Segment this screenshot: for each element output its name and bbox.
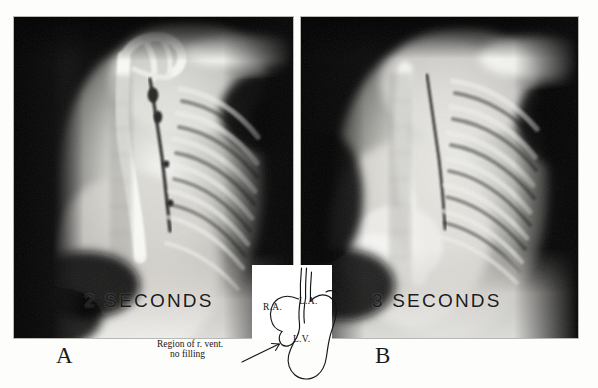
timestamp-label-a: 2 SECONDS [84, 290, 214, 312]
panel-letter-a: A [56, 344, 73, 367]
chamber-label-ra: R.A. [263, 302, 282, 312]
chamber-label-lv: L.V. [293, 334, 310, 344]
annotation-line-2: no filling [157, 349, 223, 359]
timestamp-label-b: 3 SECONDS [372, 290, 502, 312]
panel-letter-b: B [375, 344, 390, 367]
figure-root: 2 SECONDS [0, 0, 598, 388]
chamber-label-la: L.A. [299, 296, 318, 306]
pointer-arrow [242, 344, 280, 363]
region-annotation: Region of r. vent. no filling [157, 339, 223, 360]
annotation-line-1: Region of r. vent. [157, 339, 223, 349]
